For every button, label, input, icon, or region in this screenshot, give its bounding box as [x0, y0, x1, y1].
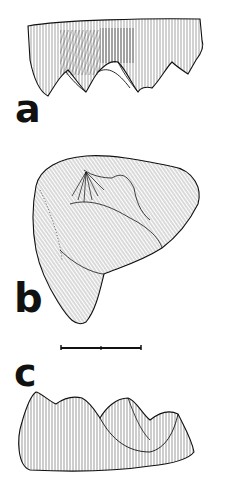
panel-label-a: a — [15, 90, 41, 128]
scale-bar — [61, 345, 141, 350]
tooth-drawing-c — [19, 392, 194, 471]
tooth-drawing-b — [33, 156, 199, 324]
figure-canvas — [0, 0, 237, 486]
panel-label-b: b — [14, 278, 43, 318]
panel-label-c: c — [14, 354, 37, 392]
tooth-drawing-a — [28, 19, 203, 96]
